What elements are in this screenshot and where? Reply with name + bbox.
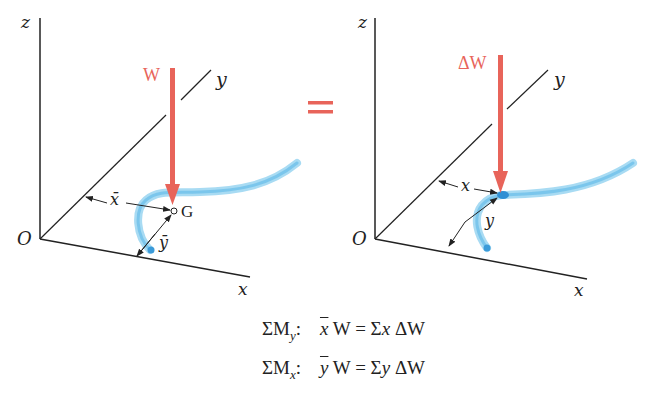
weight-label: W <box>143 65 160 85</box>
ybar-label: ȳ <box>158 233 169 252</box>
equals-sign <box>308 101 333 114</box>
left-figure: z y x O W G x̄ ȳ <box>17 12 297 299</box>
element-weight-label: ΔW <box>458 53 487 73</box>
x-axis-label: x <box>238 279 248 299</box>
y-axis-far <box>181 70 211 100</box>
equation-colon: : <box>296 318 301 339</box>
y-axis <box>40 115 166 239</box>
element-weight-arrow-head <box>493 171 508 193</box>
equation-moment-y: ΣMy: x W = Σx ΔW <box>0 318 646 344</box>
origin-label: O <box>352 228 367 249</box>
equation-rhs-var: x <box>382 318 390 339</box>
element-weight-arrow-shaft <box>498 55 503 173</box>
equation-colon: : <box>296 357 301 378</box>
xbar-label: x̄ <box>110 190 119 209</box>
y-axis-label: y <box>553 68 565 90</box>
z-axis-label: z <box>357 12 368 32</box>
xbar-dimension-left <box>86 197 107 203</box>
weight-arrow-shaft <box>170 68 175 186</box>
equation-moment-x: ΣMx: y W = Σy ΔW <box>0 357 646 383</box>
centroid-point <box>171 208 177 214</box>
equation-rhs: ΔW <box>390 357 425 378</box>
origin-label: O <box>17 228 32 249</box>
equation-label: ΣM <box>262 357 290 378</box>
x-dimension-left <box>439 181 458 187</box>
equation-lhs: W = Σ <box>328 357 381 378</box>
x-axis-label: x <box>574 280 584 300</box>
y-axis-far <box>507 70 548 109</box>
equation-rhs: ΔW <box>390 318 425 339</box>
x-dimension-right <box>474 189 497 193</box>
xbar-dimension-right <box>126 203 170 210</box>
equation-label: ΣM <box>262 318 290 339</box>
equation-rhs-var: y <box>382 357 390 378</box>
z-axis-label: z <box>20 12 31 32</box>
y-label: y <box>484 211 495 230</box>
centroid-label: G <box>181 202 193 221</box>
element-segment <box>497 191 509 199</box>
equation-lhs: W = Σ <box>328 318 381 339</box>
x-label: x <box>461 176 470 195</box>
y-axis-label: y <box>215 68 227 90</box>
right-figure: z y x O ΔW x y <box>352 12 633 300</box>
